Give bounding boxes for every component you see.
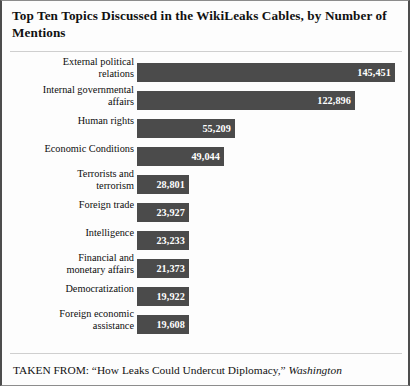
bar-category-label: Foreign economicassistance [2,308,134,331]
figure-container: Top Ten Topics Discussed in the WikiLeak… [0,0,410,386]
bar-value-label: 23,233 [156,231,185,250]
bar-category-label: Intelligence [2,227,134,239]
bar-track: 19,608 [137,315,402,334]
source-note-publication: Washington [288,364,341,376]
bar-track: 21,373 [137,259,402,278]
bar-row: Foreign trade23,927 [2,199,408,227]
bar-row: Terrorists andterrorism28,801 [2,171,408,199]
bar-value-label: 19,922 [156,287,185,306]
bar-value-label: 21,373 [156,259,185,278]
bar-track: 49,044 [137,147,402,166]
bar-category-label-line2: terrorism [2,180,134,192]
bar-category-label: External politicalrelations [2,56,134,79]
bar-category-label: Foreign trade [2,199,134,211]
bar-track: 23,233 [137,231,402,250]
bar-category-label-line1: Terrorists and [2,168,134,180]
bar-category-label-line2: monetary affairs [2,264,134,276]
bar-value-label: 49,044 [191,147,220,166]
bar-category-label-line2: assistance [2,320,134,332]
bar-track: 145,451 [137,63,402,82]
source-note: TAKEN FROM: “How Leaks Could Undercut Di… [13,363,405,377]
bar-row: Democratization19,922 [2,283,408,311]
bar-value-label: 23,927 [156,203,185,222]
bar: 21,373 [137,259,189,278]
bar: 55,209 [137,119,235,138]
bar-row: Economic Conditions49,044 [2,143,408,171]
source-note-prefix: TAKEN FROM: “How Leaks Could Undercut Di… [13,364,288,376]
bar-value-label: 28,801 [156,175,185,194]
bar-chart-plot-area: External politicalrelations145,451Intern… [2,59,408,349]
bar-row: Intelligence23,233 [2,227,408,255]
bar: 28,801 [137,175,189,194]
bar-category-label-line1: Foreign economic [2,308,134,320]
bar-category-label-line1: Financial and [2,252,134,264]
title-block: Top Ten Topics Discussed in the WikiLeak… [12,7,394,41]
bar-track: 19,922 [137,287,402,306]
bar-row: External politicalrelations145,451 [2,59,408,87]
bar-track: 55,209 [137,119,402,138]
bar-category-label-line1: Internal governmental [2,84,134,96]
bar: 23,927 [137,203,189,222]
bar-category-label: Terrorists andterrorism [2,168,134,191]
bar: 122,896 [137,91,355,110]
bar: 145,451 [137,63,395,82]
bar-value-label: 145,451 [357,63,391,82]
bar: 19,922 [137,287,189,306]
bar-category-label-line2: relations [2,68,134,80]
bar: 19,608 [137,315,189,334]
footer-divider [10,353,402,354]
bar-value-label: 55,209 [202,119,231,138]
bar-row: Internal governmentalaffairs122,896 [2,87,408,115]
bar-value-label: 122,896 [317,91,351,110]
title-divider [10,51,402,52]
bar-category-label: Internal governmentalaffairs [2,84,134,107]
bar-track: 23,927 [137,203,402,222]
bar-row: Financial andmonetary affairs21,373 [2,255,408,283]
bar-value-label: 19,608 [156,315,185,334]
bar-category-label: Financial andmonetary affairs [2,252,134,275]
bar-track: 28,801 [137,175,402,194]
bar-row: Foreign economicassistance19,608 [2,311,408,339]
bar-category-label: Democratization [2,283,134,295]
bar-row: Human rights55,209 [2,115,408,143]
bar: 23,233 [137,231,189,250]
bar-category-label-line2: affairs [2,96,134,108]
bar-category-label: Human rights [2,115,134,127]
bar-category-label: Economic Conditions [2,143,134,155]
page-title: Top Ten Topics Discussed in the WikiLeak… [12,7,394,41]
bar: 49,044 [137,147,224,166]
bar-track: 122,896 [137,91,402,110]
bar-category-label-line1: External political [2,56,134,68]
